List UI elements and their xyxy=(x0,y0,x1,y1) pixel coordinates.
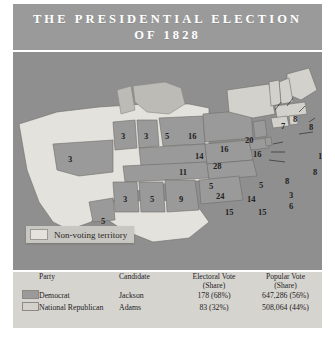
vote-label: 5 xyxy=(209,182,213,191)
vote-label: 24 xyxy=(216,192,225,201)
header-electoral-vote: Electoral Vote (Share) xyxy=(179,272,249,290)
row-swatch-cell xyxy=(13,290,39,302)
row-party: National Republican xyxy=(39,302,119,314)
vote-label: 14 xyxy=(247,195,256,204)
vote-label: 7 xyxy=(281,122,285,131)
region-vt-rep xyxy=(269,80,281,106)
vote-label: 15 xyxy=(225,208,234,217)
vote-label: 5 xyxy=(165,132,169,141)
vote-label: 6 xyxy=(289,202,293,211)
vote-label: 5 xyxy=(150,195,154,204)
header-popular-vote-line1: Popular Vote xyxy=(249,272,322,281)
results-table-body: Democrat Jackson 178 (68%) 647,286 (56%)… xyxy=(13,290,322,314)
row-swatch-cell xyxy=(13,302,39,314)
non-voting-label: Non-voting territory xyxy=(54,230,127,240)
election-map-infographic: THE PRESIDENTIAL ELECTION OF 1828 xyxy=(0,0,335,338)
region-ct-rep xyxy=(271,116,289,128)
title-line-2: OF 1828 xyxy=(134,27,201,43)
title-line-1: THE PRESIDENTIAL ELECTION xyxy=(33,11,302,27)
non-voting-swatch-icon xyxy=(30,229,48,240)
header-popular-vote: Popular Vote (Share) xyxy=(249,272,322,290)
national-republican-color-swatch-icon xyxy=(22,302,39,311)
democrat-color-swatch-icon xyxy=(22,290,39,299)
table-row: National Republican Adams 83 (32%) 508,0… xyxy=(13,302,322,314)
vote-label: 3 xyxy=(144,132,148,141)
vote-label: 5 xyxy=(101,217,105,226)
results-table-head: Party Candidate Electoral Vote (Share) P… xyxy=(13,272,322,290)
results-panel: Party Candidate Electoral Vote (Share) P… xyxy=(13,272,322,328)
vote-label: 3 xyxy=(123,195,127,204)
region-ny-rep xyxy=(227,84,275,118)
vote-label: 3 xyxy=(68,155,72,164)
vote-label: 11 xyxy=(179,168,187,177)
non-voting-territory-legend: Non-voting territory xyxy=(26,226,134,243)
header-party: Party xyxy=(39,272,119,290)
header-electoral-vote-line2: (Share) xyxy=(179,281,249,290)
header-electoral-vote-line1: Electoral Vote xyxy=(179,272,249,281)
vote-label: 8 xyxy=(293,115,297,124)
vote-label: 16 xyxy=(220,145,229,154)
vote-label: 28 xyxy=(213,162,222,171)
row-candidate: Adams xyxy=(119,302,179,314)
table-header-row: Party Candidate Electoral Vote (Share) P… xyxy=(13,272,322,290)
row-candidate: Jackson xyxy=(119,290,179,302)
row-party: Democrat xyxy=(39,290,119,302)
results-table: Party Candidate Electoral Vote (Share) P… xyxy=(13,272,322,314)
map-panel: 3 3 3 5 16 14 11 3 5 9 5 16 28 5 24 15 2… xyxy=(13,52,322,270)
vote-label: 20 xyxy=(245,136,254,145)
row-electoral-vote: 83 (32%) xyxy=(179,302,249,314)
vote-label: 8 xyxy=(285,177,289,186)
row-popular-vote: 508,064 (44%) xyxy=(249,302,322,314)
vote-label: 5 xyxy=(259,181,263,190)
vote-label: 16 xyxy=(188,132,197,141)
header-popular-vote-line2: (Share) xyxy=(249,281,322,290)
vote-label: 14 xyxy=(195,152,204,161)
header-candidate: Candidate xyxy=(119,272,179,290)
vote-label: 16 xyxy=(253,150,262,159)
vote-label: 3 xyxy=(289,191,293,200)
vote-label: 9 xyxy=(179,195,183,204)
vote-label: 15 xyxy=(318,152,322,161)
row-popular-vote: 647,286 (56%) xyxy=(249,290,322,302)
table-row: Democrat Jackson 178 (68%) 647,286 (56%) xyxy=(13,290,322,302)
vote-label: 8 xyxy=(309,123,313,132)
vote-label: 8 xyxy=(313,168,317,177)
region-de-dem xyxy=(265,137,272,146)
row-electoral-vote: 178 (68%) xyxy=(179,290,249,302)
header-swatch-spacer xyxy=(13,272,39,290)
region-nj-dem xyxy=(253,120,267,138)
region-midwest-dem xyxy=(53,140,113,176)
vote-label: 3 xyxy=(121,132,125,141)
vote-label: 15 xyxy=(258,208,267,217)
title-banner: THE PRESIDENTIAL ELECTION OF 1828 xyxy=(13,4,322,50)
